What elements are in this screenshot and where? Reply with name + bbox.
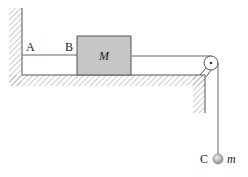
floor-hatching xyxy=(9,75,205,86)
diagram-canvas: A B M C m xyxy=(0,0,248,177)
pulley-axle xyxy=(210,62,213,65)
ball-m xyxy=(213,154,223,164)
ledge-hatching xyxy=(193,75,205,113)
label-b: B xyxy=(65,40,73,54)
label-m: m xyxy=(227,152,236,166)
label-a: A xyxy=(26,40,35,54)
label-block-m: M xyxy=(98,49,110,63)
mechanics-diagram: A B M C m xyxy=(0,0,248,177)
label-c: C xyxy=(200,152,208,166)
wall-hatching xyxy=(9,8,22,86)
